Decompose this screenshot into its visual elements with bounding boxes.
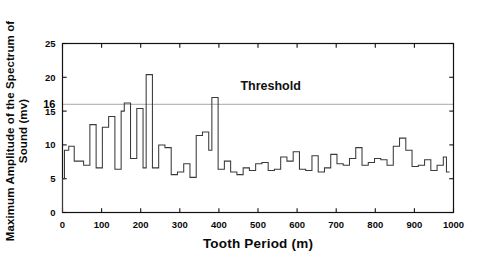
x-tick-label-400: 400 — [211, 219, 227, 230]
plot-canvas: 0100200300400500600700800900100005101520… — [0, 0, 478, 262]
x-tick-label-700: 700 — [328, 219, 344, 230]
x-tick-label-0: 0 — [60, 219, 65, 230]
x-tick-label-300: 300 — [172, 219, 188, 230]
y-tick-label-threshold: 16 — [43, 98, 55, 110]
x-tick-label-100: 100 — [94, 219, 110, 230]
y-tick-label-10: 10 — [45, 139, 56, 150]
y-tick-label-0: 0 — [50, 207, 55, 218]
x-tick-label-900: 900 — [406, 219, 422, 230]
y-tick-label-20: 20 — [45, 72, 56, 83]
x-tick-label-1000: 1000 — [443, 219, 464, 230]
y-tick-label-5: 5 — [50, 173, 56, 184]
x-tick-label-500: 500 — [250, 219, 266, 230]
x-axis-label: Tooth Period (m) — [62, 236, 454, 251]
x-tick-label-200: 200 — [133, 219, 149, 230]
chart-figure: Maximum Amplitude of the Spectrum of Sou… — [0, 0, 478, 262]
x-tick-label-800: 800 — [367, 219, 383, 230]
y-tick-label-25: 25 — [45, 38, 56, 49]
threshold-annotation-label: Threshold — [240, 79, 300, 93]
x-tick-label-600: 600 — [289, 219, 305, 230]
